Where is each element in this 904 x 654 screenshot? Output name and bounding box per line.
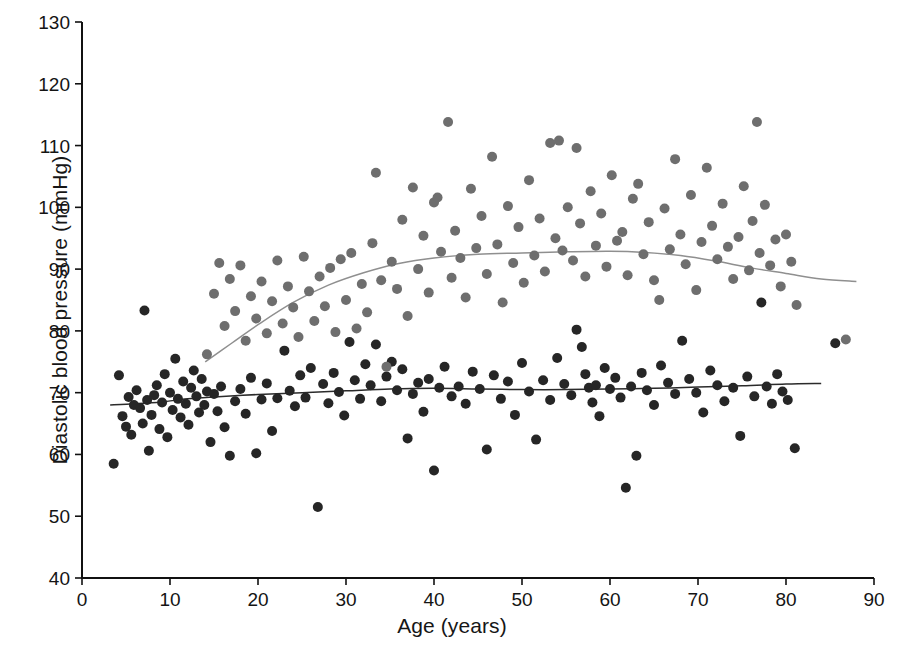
svg-text:40: 40 <box>49 568 70 589</box>
svg-text:70: 70 <box>687 589 708 610</box>
svg-text:90: 90 <box>863 589 884 610</box>
svg-text:130: 130 <box>38 12 70 33</box>
svg-text:60: 60 <box>599 589 620 610</box>
x-axis-ticks <box>82 578 874 585</box>
scatter-plot-svg: 4050607080901001101201300102030405060708… <box>0 0 904 654</box>
tick-labels: 4050607080901001101201300102030405060708… <box>38 12 884 610</box>
svg-text:50: 50 <box>511 589 532 610</box>
svg-text:80: 80 <box>775 589 796 610</box>
series-group-dark <box>109 297 841 511</box>
y-axis-title: Diastolic blood pressure (mmHg) <box>48 100 72 520</box>
chart-figure: 4050607080901001101201300102030405060708… <box>0 0 904 654</box>
svg-text:20: 20 <box>247 589 268 610</box>
x-axis-title: Age (years) <box>0 614 904 638</box>
svg-text:30: 30 <box>335 589 356 610</box>
series-group-gray <box>202 117 851 372</box>
svg-text:0: 0 <box>77 589 88 610</box>
svg-text:120: 120 <box>38 74 70 95</box>
y-axis-ticks <box>75 22 82 578</box>
data-points <box>109 117 851 512</box>
svg-text:40: 40 <box>423 589 444 610</box>
svg-text:10: 10 <box>159 589 180 610</box>
axis-lines <box>82 22 874 578</box>
